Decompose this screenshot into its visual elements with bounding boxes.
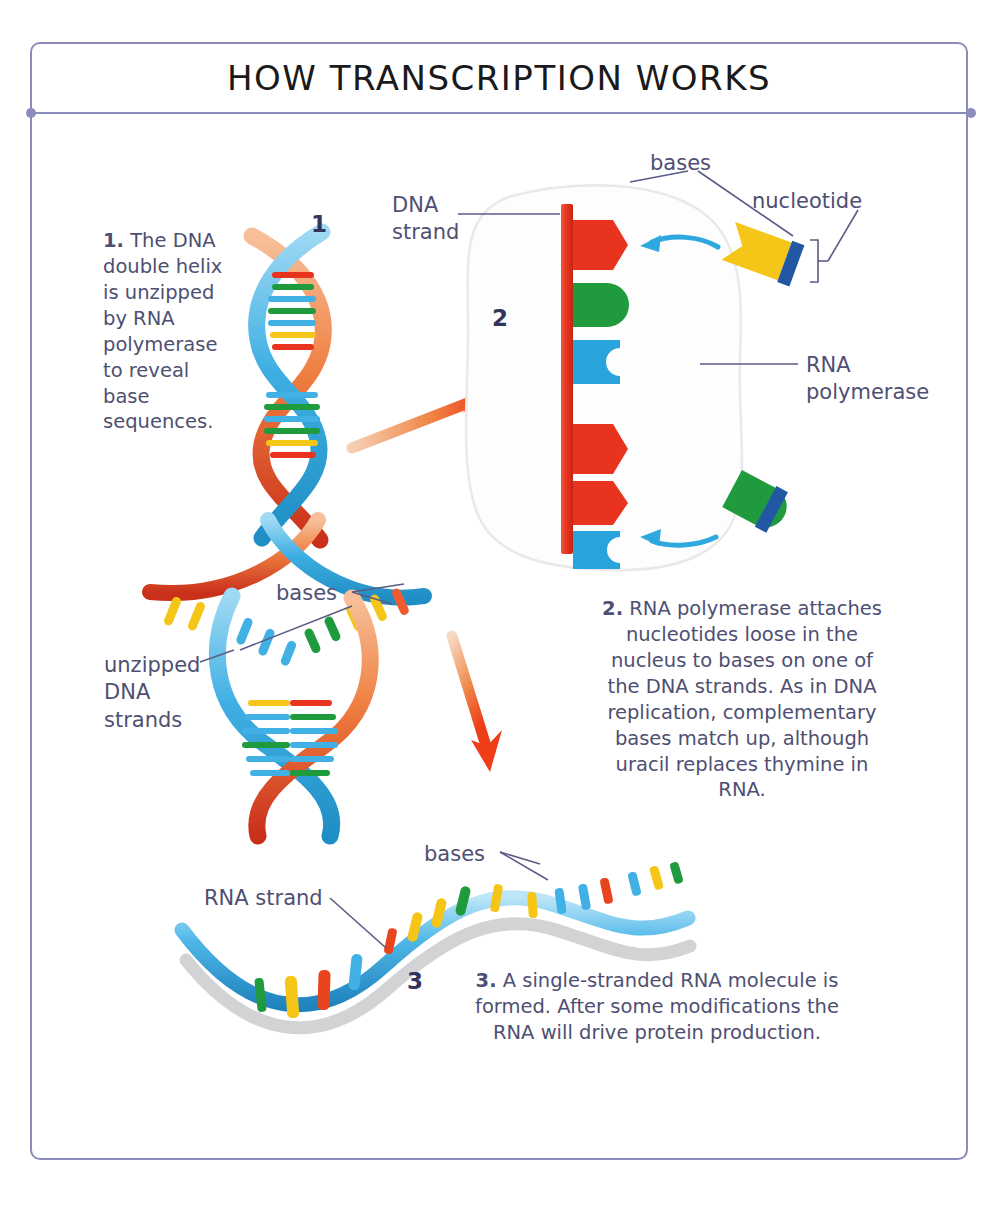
label-bases-rna: bases — [424, 841, 485, 868]
step-marker-3: 3 — [407, 968, 423, 994]
title-bar: HOW TRANSCRIPTION WORKS — [32, 44, 966, 112]
label-bases-helix: bases — [276, 580, 337, 607]
step-marker-2: 2 — [492, 305, 508, 331]
label-dna-strand: DNA strand — [392, 192, 459, 247]
step-2-paragraph: 2. RNA polymerase attaches nucleotides l… — [592, 596, 892, 803]
label-rna-polymerase: RNA polymerase — [806, 352, 929, 407]
step-3-paragraph: 3. A single-stranded RNA molecule is for… — [452, 968, 862, 1046]
label-rna-strand: RNA strand — [204, 885, 323, 912]
label-unzipped-dna: unzipped DNA strands — [104, 652, 200, 734]
step-3-number: 3. — [476, 969, 497, 992]
title-divider — [30, 112, 968, 114]
step-3-body: A single-stranded RNA molecule is formed… — [475, 969, 839, 1044]
step-1-number: 1. — [103, 229, 124, 252]
divider-dot-right — [966, 108, 976, 118]
divider-dot-left — [26, 108, 36, 118]
step-1-paragraph: 1. The DNA double helix is unzipped by R… — [103, 228, 235, 435]
page-title: HOW TRANSCRIPTION WORKS — [227, 58, 771, 98]
step-2-number: 2. — [602, 597, 623, 620]
step-marker-1: 1 — [311, 211, 327, 237]
label-nucleotide: nucleotide — [752, 188, 862, 215]
step-1-body: The DNA double helix is unzipped by RNA … — [103, 229, 222, 433]
label-bases-nucleus: bases — [650, 150, 711, 177]
step-2-body: RNA polymerase attaches nucleotides loos… — [607, 597, 882, 801]
